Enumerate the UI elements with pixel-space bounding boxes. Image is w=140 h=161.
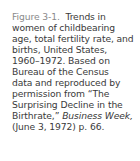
journal-title: Business Week, <box>62 110 133 121</box>
caption-line-5: 1960–1972. Based on <box>12 55 140 66</box>
figure-label: Figure 3-1. <box>12 11 60 22</box>
caption-line-10: Birthrate,” Business Week, <box>12 110 140 121</box>
caption-text: Trends in <box>65 11 105 22</box>
caption-text: Birthrate,” <box>12 110 59 121</box>
caption-line-6: Bureau of the Census <box>12 66 140 77</box>
caption-line-11: (June 3, 1972) p. 66. <box>12 121 140 132</box>
caption-line-4: births, United States, <box>12 44 140 55</box>
caption-line-2: women of childbearing <box>12 22 140 33</box>
caption-line-7: data and reproduced by <box>12 77 140 88</box>
caption-line-8: permission from “The <box>12 88 140 99</box>
caption-line-3: age, total fertility rate, and <box>12 33 140 44</box>
caption-line-1: Figure 3-1. Trends in <box>12 11 140 22</box>
caption-line-9: Surprising Decline in the <box>12 99 140 110</box>
figure-caption: Figure 3-1. Trends in women of childbear… <box>12 11 140 132</box>
